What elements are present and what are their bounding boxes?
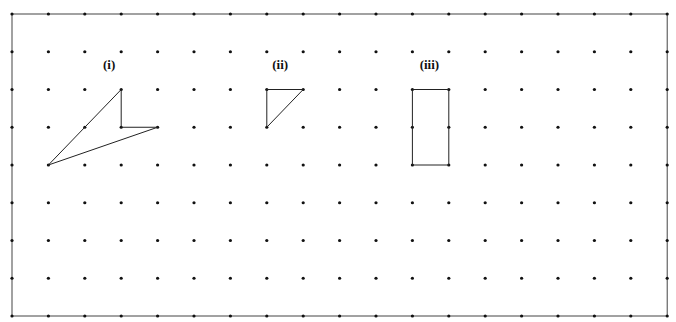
grid-dot	[192, 201, 195, 204]
grid-dot	[556, 201, 559, 204]
grid-dot	[520, 201, 523, 204]
figure-labels: (i) (ii) (iii)	[103, 57, 439, 72]
grid-dot	[447, 12, 450, 15]
grid-dot	[556, 163, 559, 166]
grid-dot	[47, 126, 50, 129]
grid-dot	[120, 277, 123, 280]
grid-dot	[338, 201, 341, 204]
grid-dot	[229, 201, 232, 204]
grid-dot	[338, 88, 341, 91]
dot-grid-diagram: (i) (ii) (iii)	[0, 0, 676, 322]
grid-dot	[374, 50, 377, 53]
grid-dot	[520, 239, 523, 242]
grid-dot	[10, 277, 13, 280]
grid-dot	[374, 314, 377, 317]
figure-shape	[48, 90, 157, 166]
grid-dot	[302, 201, 305, 204]
grid-dot	[484, 163, 487, 166]
grid-dot	[156, 239, 159, 242]
grid-dot	[192, 50, 195, 53]
grid-dot	[629, 126, 632, 129]
grid-dot	[302, 50, 305, 53]
grid-dot	[83, 239, 86, 242]
grid-dot	[47, 314, 50, 317]
grid-dot	[666, 239, 669, 242]
grid-dot	[265, 239, 268, 242]
grid-dot	[156, 277, 159, 280]
grid-dot	[374, 12, 377, 15]
grid-dot	[47, 12, 50, 15]
grid-dot	[83, 314, 86, 317]
grid-dot	[192, 314, 195, 317]
grid-dot	[666, 314, 669, 317]
grid-dot	[520, 126, 523, 129]
grid-dot	[411, 277, 414, 280]
grid-dot	[192, 277, 195, 280]
grid-dot	[520, 314, 523, 317]
grid-dot	[666, 88, 669, 91]
grid-dot	[156, 50, 159, 53]
grid-dot	[120, 12, 123, 15]
grid-dot	[520, 12, 523, 15]
grid-dot	[374, 163, 377, 166]
grid-dot	[411, 12, 414, 15]
grid-dot	[229, 314, 232, 317]
figure-label-i: (i)	[103, 57, 115, 72]
grid-dot	[10, 239, 13, 242]
grid-dot	[120, 201, 123, 204]
grid-dot	[229, 239, 232, 242]
grid-dot	[10, 201, 13, 204]
grid-dot	[156, 314, 159, 317]
grid-dot	[484, 88, 487, 91]
grid-dot	[593, 126, 596, 129]
grid-dot	[10, 126, 13, 129]
grid-dot	[629, 277, 632, 280]
grid-dot	[229, 50, 232, 53]
grid-dot	[484, 277, 487, 280]
grid-dot	[229, 88, 232, 91]
grid-dot	[10, 88, 13, 91]
grid-dot	[556, 50, 559, 53]
grid-dot	[593, 314, 596, 317]
grid-dot	[47, 50, 50, 53]
grid-dot	[556, 126, 559, 129]
grid-dot	[374, 88, 377, 91]
grid-dot	[520, 88, 523, 91]
grid-dot	[374, 126, 377, 129]
grid-dot	[447, 314, 450, 317]
grid-dot	[593, 277, 596, 280]
grid-dot	[229, 163, 232, 166]
grid-dot	[411, 201, 414, 204]
grid-dot	[484, 50, 487, 53]
grid-dot	[484, 201, 487, 204]
grid-dot	[192, 126, 195, 129]
grid-dot	[556, 12, 559, 15]
grid-dot	[229, 277, 232, 280]
grid-dot	[593, 12, 596, 15]
figure-label-iii: (iii)	[420, 57, 440, 72]
grid-dot	[520, 163, 523, 166]
grid-dot	[265, 50, 268, 53]
grid-dot	[192, 163, 195, 166]
grid-dot	[374, 277, 377, 280]
grid-dot	[556, 277, 559, 280]
grid-dot	[629, 314, 632, 317]
grid-dot	[47, 277, 50, 280]
grid-dot	[338, 50, 341, 53]
grid-dot	[83, 88, 86, 91]
figures	[48, 90, 448, 166]
grid-dot	[265, 277, 268, 280]
grid-dot	[629, 163, 632, 166]
grid-dot	[593, 50, 596, 53]
grid-dot	[302, 126, 305, 129]
grid-dot	[120, 163, 123, 166]
figure-shape	[412, 90, 448, 166]
grid-dot	[302, 12, 305, 15]
grid-dot	[156, 88, 159, 91]
grid-dot	[447, 239, 450, 242]
grid-dot	[447, 277, 450, 280]
grid-dot	[302, 277, 305, 280]
grid-dot	[120, 314, 123, 317]
grid-dot	[520, 50, 523, 53]
grid-dot	[338, 277, 341, 280]
